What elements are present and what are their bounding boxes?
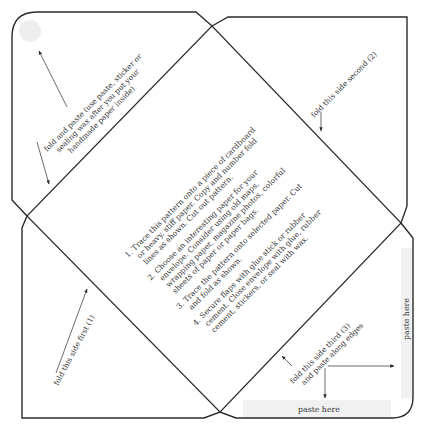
seal-circle bbox=[19, 20, 41, 42]
envelope-template: fold and paste (use paste, sticker or se… bbox=[0, 0, 428, 437]
arrow-to-bottom-right-fold-icon bbox=[282, 356, 292, 366]
svg-text:fold and paste (use paste, sti: fold and paste (use paste, sticker or bbox=[42, 52, 144, 154]
top-right-flap-label: fold this side second (2) bbox=[309, 50, 379, 120]
paste-here-right-label: paste here bbox=[402, 298, 411, 340]
instruction-4-line-3: cement, stickers, or seal with wax. bbox=[209, 233, 310, 334]
top-left-flap-label: fold and paste (use paste, sticker or se… bbox=[42, 52, 157, 167]
arrow-to-seal-icon bbox=[39, 51, 67, 107]
svg-text:paste here: paste here bbox=[402, 298, 411, 340]
fold-line-top-left bbox=[27, 26, 212, 216]
svg-text:fold this side second (2): fold this side second (2) bbox=[309, 50, 379, 120]
bottom-right-flap-label: fold this side third (3) and paste along… bbox=[288, 315, 365, 392]
instructions: 1. Trace this pattern onto a piece of ca… bbox=[123, 125, 338, 340]
svg-text:sealing wax after you put your: sealing wax after you put your bbox=[54, 67, 141, 154]
fold-line-bottom-right bbox=[220, 223, 401, 412]
svg-text:and paste along edges: and paste along edges bbox=[299, 321, 365, 387]
paste-here-bottom-label: paste here bbox=[298, 405, 340, 414]
